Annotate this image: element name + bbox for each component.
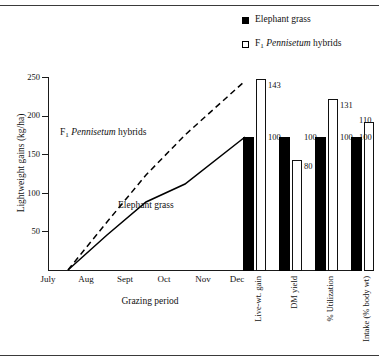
bar-dm-yield-hybrids <box>292 160 302 271</box>
bar-utilization-hybrids <box>328 99 338 271</box>
bar-value-utilization-hybrids: 131 <box>340 101 353 110</box>
bar-live-wt-gain-hybrids <box>256 79 266 271</box>
bar-dm-yield-elephant <box>279 137 290 271</box>
inline-label-elephant-grass: Elephant grass <box>118 200 174 210</box>
inline-hybrids-text: hybrids <box>118 127 147 137</box>
inline-label-pennisetum-hybrids: F1 Pennisetum hybrids <box>60 127 146 139</box>
bar-intake-elephant <box>351 137 362 271</box>
inline-genus-text: Pennisetum <box>71 127 115 137</box>
bar-intake-hybrids <box>364 122 374 271</box>
figure-container: Elephant grass F1 Pennisetum hybrids 50 … <box>0 0 379 364</box>
inline-f-subscript: 1 <box>65 131 69 139</box>
line-pennisetum-hybrids <box>68 81 245 270</box>
bar-value-dm-hybrids: 80 <box>304 162 313 171</box>
bar-value-intake-hybrids: 110 <box>359 116 371 125</box>
bar-value-intake-elephant: 100 <box>359 133 372 142</box>
bar-value-live-wt-hybrids: 143 <box>268 81 281 90</box>
bar-utilization-elephant <box>315 137 326 271</box>
bar-live-wt-gain-elephant <box>243 137 254 271</box>
